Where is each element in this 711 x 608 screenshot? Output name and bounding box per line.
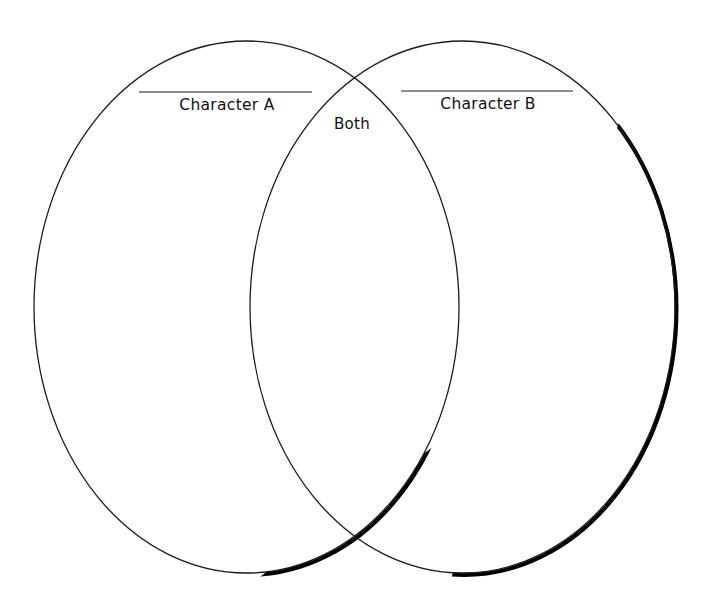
character-b-circle: [250, 41, 675, 573]
character-a-label: Character A: [179, 96, 274, 114]
character-a-circle: [34, 41, 459, 573]
venn-diagram: [0, 0, 711, 608]
character-b-label: Character B: [440, 95, 535, 113]
both-label: Both: [334, 115, 370, 133]
